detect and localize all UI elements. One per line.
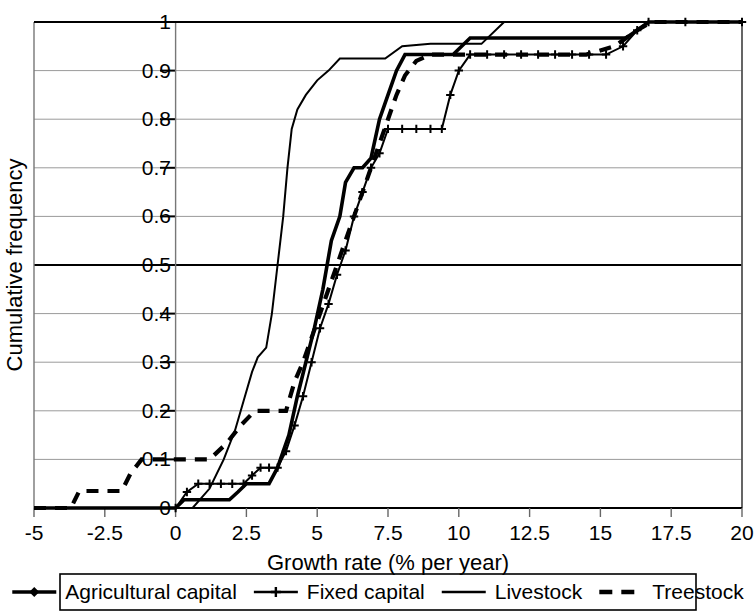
legend-item-agricultural-capital[interactable]: Agricultural capital (12, 580, 237, 603)
legend-item-livestock[interactable]: Livestock (442, 580, 583, 603)
xtick-label-10: 10 (447, 521, 470, 544)
chart-canvas: 00.10.20.30.40.50.60.70.80.91-5-2.502.55… (0, 0, 756, 612)
x-axis-title: Growth rate (% per year) (267, 550, 509, 575)
legend-item-fixed-capital[interactable]: Fixed capital (254, 580, 425, 603)
legend-label: Treestock (652, 580, 744, 603)
ytick-label-0_6: 0.6 (142, 204, 171, 227)
cumulative-frequency-chart-figure: 00.10.20.30.40.50.60.70.80.91-5-2.502.55… (0, 0, 756, 612)
xtick-label-15: 15 (589, 521, 612, 544)
xtick-label-7_5: 7.5 (373, 521, 402, 544)
ytick-label-0_2: 0.2 (142, 399, 171, 422)
xtick-label-12_5: 12.5 (509, 521, 550, 544)
ytick-label-0_7: 0.7 (142, 156, 171, 179)
ytick-label-1: 1 (159, 10, 171, 33)
legend-label: Agricultural capital (65, 580, 237, 603)
legend-label: Fixed capital (307, 580, 425, 603)
xtick-label-neg5: -5 (25, 521, 44, 544)
xtick-label-0: 0 (170, 521, 182, 544)
y-axis-title: Cumulative frequency (2, 159, 27, 372)
legend-label: Livestock (495, 580, 583, 603)
ytick-label-0_8: 0.8 (142, 107, 171, 130)
xtick-label-2_5: 2.5 (232, 521, 261, 544)
ytick-label-0_9: 0.9 (142, 59, 171, 82)
xtick-label-20: 20 (730, 521, 753, 544)
xtick-label-17_5: 17.5 (651, 521, 692, 544)
ytick-label-0_3: 0.3 (142, 350, 171, 373)
xtick-label-neg2_5: -2.5 (87, 521, 123, 544)
legend-marker-diamond-icon (29, 587, 39, 597)
ytick-label-0_4: 0.4 (142, 302, 172, 325)
xtick-label-5: 5 (311, 521, 323, 544)
ytick-label-0_5: 0.5 (142, 253, 171, 276)
legend-item-treestock[interactable]: Treestock (599, 580, 744, 603)
legend-marker-cross-icon (271, 587, 281, 597)
